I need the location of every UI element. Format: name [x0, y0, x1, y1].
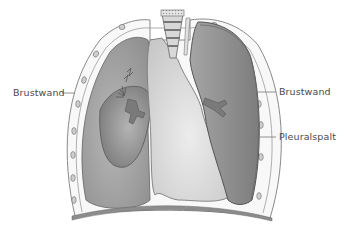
- pneumothorax-diagram: [0, 0, 341, 235]
- label-left-chest-wall: Brustwand: [13, 87, 65, 98]
- label-right-chest-wall: Brustwand: [279, 86, 331, 97]
- label-pleural-gap: Pleuralspalt: [279, 131, 336, 142]
